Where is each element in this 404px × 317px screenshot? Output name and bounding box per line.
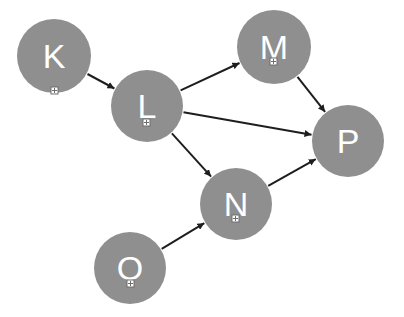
expand-marker-icon[interactable] — [51, 87, 58, 94]
node-p[interactable]: P — [312, 105, 384, 177]
node-m[interactable]: M — [237, 10, 311, 84]
edge-m-to-p — [298, 77, 326, 112]
expand-marker-icon[interactable] — [232, 215, 239, 222]
node-k[interactable]: K — [17, 19, 91, 94]
edge-n-to-p — [268, 159, 316, 186]
expand-marker-icon[interactable] — [143, 119, 150, 126]
edge-o-to-n — [162, 223, 205, 249]
edge-l-to-p — [184, 112, 312, 134]
graph-canvas: KLMNOP — [0, 0, 404, 317]
edge-l-to-n — [172, 133, 211, 176]
edge-k-to-l — [88, 74, 115, 89]
edge-l-to-m — [181, 63, 240, 90]
node-l[interactable]: L — [111, 70, 183, 142]
expand-marker-icon[interactable] — [127, 280, 134, 287]
node-n[interactable]: N — [200, 168, 272, 240]
node-o[interactable]: O — [94, 232, 166, 304]
nodes-layer: KLMNOP — [17, 10, 384, 304]
node-label: P — [337, 122, 360, 160]
node-label: K — [43, 37, 66, 75]
expand-marker-icon[interactable] — [270, 58, 277, 65]
